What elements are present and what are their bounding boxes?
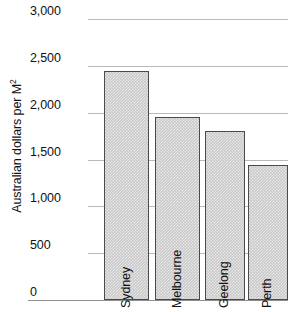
bar-category-label: Sydney bbox=[119, 267, 133, 308]
gridline bbox=[88, 19, 288, 20]
axis-baseline bbox=[28, 300, 288, 301]
bar-category-label: Melbourne bbox=[170, 250, 184, 308]
bar-category-label: Geelong bbox=[217, 261, 231, 308]
bar-category-label: Perth bbox=[260, 279, 274, 308]
plot-area: SydneyMelbourneGeelongPerth bbox=[0, 0, 292, 312]
bar-chart: Australian dollars per M2 05001,0001,500… bbox=[0, 0, 292, 312]
bar bbox=[104, 71, 149, 300]
gridline bbox=[88, 66, 288, 67]
